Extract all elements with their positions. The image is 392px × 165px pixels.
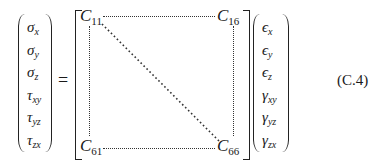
strain-component: ϵz <box>262 61 277 84</box>
strain-component: ϵx <box>262 16 277 39</box>
strain-component: γzx <box>262 129 277 152</box>
strain-component: γyz <box>262 106 277 129</box>
equation-number: (C.4) <box>337 72 368 89</box>
strain-component: ϵy <box>262 39 277 62</box>
left-paren <box>253 14 260 152</box>
strain-vector: ϵx ϵy ϵz γxy γyz γzx <box>253 14 289 152</box>
right-paren <box>282 14 289 152</box>
diagonal-dotted-line <box>0 0 392 165</box>
strain-component: γxy <box>262 84 277 107</box>
